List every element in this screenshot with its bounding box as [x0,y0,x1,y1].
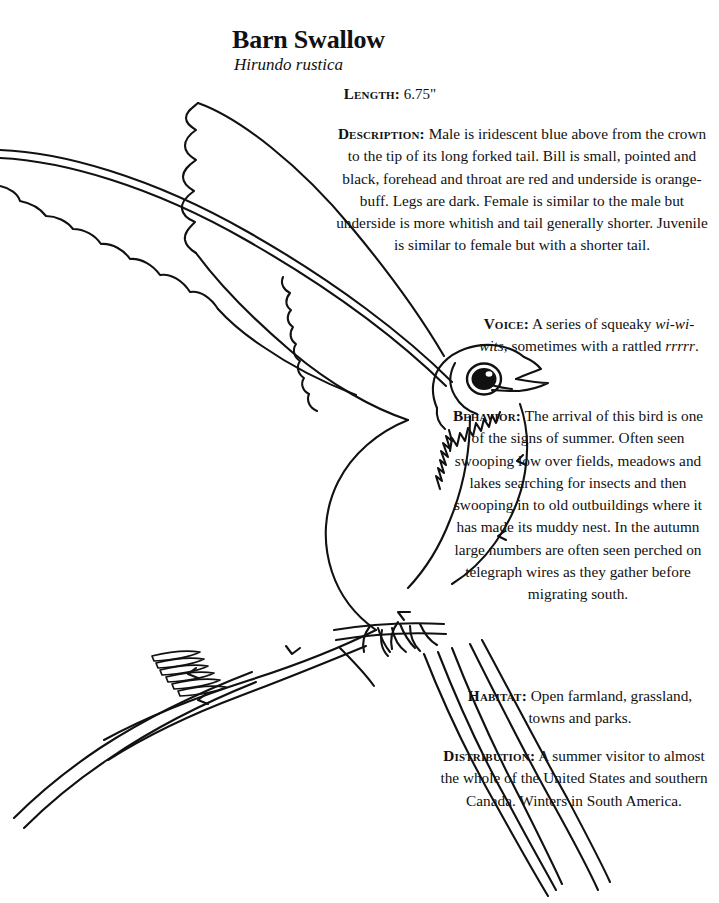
section-voice: Voice: A series of squeaky wi-wi-wits, s… [470,313,708,358]
section-label-description: Description: [338,125,425,142]
section-text-description: Male is iridescent blue above from the c… [336,125,708,253]
section-behavior: Behavior: The arrival of this bird is on… [448,405,708,605]
voice-call-secondary: rrrrr [665,337,695,354]
section-distribution: Distribution: A summer visitor to almost… [440,745,708,812]
section-text-habitat: Open farmland, grassland, towns and park… [528,687,692,726]
section-description: Description: Male is iridescent blue abo… [336,123,708,257]
page-title: Barn Swallow [232,26,385,53]
section-label-length: Length: [344,86,400,102]
scientific-name: Hirundo rustica [234,55,343,75]
section-length: Length: 6.75" [300,84,480,106]
section-label-distribution: Distribution: [443,747,535,764]
section-text-voice-after: . [695,337,699,354]
section-text-length: 6.75" [404,86,436,102]
field-guide-page: Barn Swallow Hirundo rustica Length: 6.7… [0,0,719,903]
section-text-voice-middle: , sometimes with a rattled [504,337,665,354]
section-text-voice-before: A series of squeaky [532,315,655,332]
section-label-habitat: Habitat: [468,687,527,704]
section-habitat: Habitat: Open farmland, grassland, towns… [452,685,708,730]
section-text-behavior: The arrival of this bird is one of the s… [454,407,703,602]
section-label-behavior: Behavior: [453,407,521,424]
section-label-voice: Voice: [484,315,529,332]
text-layer: Barn Swallow Hirundo rustica Length: 6.7… [0,0,719,903]
